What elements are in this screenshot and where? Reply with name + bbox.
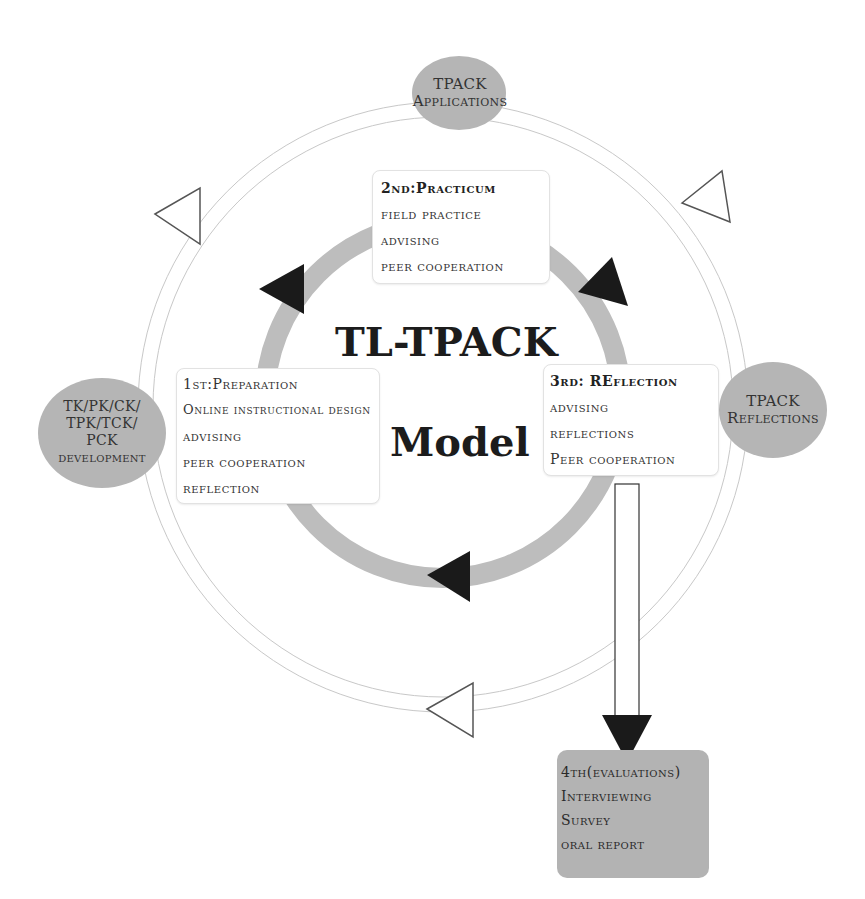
node-tpack-applications: TPACK Applications <box>410 76 510 110</box>
node-tpack-reflections: TPACK Reflections <box>718 393 828 427</box>
node-label-line: TPK/TCK/ <box>38 415 166 432</box>
stage-reflection-box: 3rd: REflection advising reflections Pee… <box>543 364 719 476</box>
stage-title: 1st:Preparation <box>183 371 379 397</box>
stage-item: peer cooperation <box>381 253 549 279</box>
stage-title: 2nd:Practicum <box>381 175 549 201</box>
stage-item: Interviewing <box>561 784 709 808</box>
model-title-line1: TL-TPACK <box>335 318 557 365</box>
node-label-line: Applications <box>410 93 510 110</box>
stage-practicum-box: 2nd:Practicum field practice advising pe… <box>372 170 550 284</box>
model-title-line2: Model <box>390 418 530 465</box>
stage-item: oral report <box>561 832 709 856</box>
node-label-line: TK/PK/CK/ <box>38 398 166 415</box>
stage-item: Online instructional design <box>183 397 379 423</box>
stage-item: advising <box>550 394 718 420</box>
node-label-line: TPACK <box>718 393 828 410</box>
stage-preparation-box: 1st:Preparation Online instructional des… <box>176 368 380 504</box>
stage-title: 3rd: REflection <box>550 368 718 394</box>
stage-item: Survey <box>561 808 709 832</box>
stage-item: advising <box>183 423 379 449</box>
stage-item: reflection <box>183 475 379 501</box>
node-label-line: development <box>38 449 166 466</box>
stage-item: field practice <box>381 201 549 227</box>
stage-item: peer cooperation <box>183 449 379 475</box>
stage-item: advising <box>381 227 549 253</box>
outer-arrow-bottom-icon <box>427 683 473 737</box>
node-label-line: TPACK <box>410 76 510 93</box>
cycle-arrow-bottom-icon <box>427 551 470 602</box>
to-evaluation-arrow-shaft <box>615 484 639 716</box>
outer-arrow-upper-right-icon <box>682 171 730 222</box>
outer-arrow-upper-left-icon <box>155 188 200 244</box>
node-development: TK/PK/CK/ TPK/TCK/ PCK development <box>38 398 166 466</box>
stage-item: reflections <box>550 420 718 446</box>
stage-item: Peer cooperation <box>550 446 718 472</box>
node-label-line: PCK <box>38 432 166 449</box>
stage-evaluations-box: 4th(evaluations) Interviewing Survey ora… <box>557 750 709 878</box>
node-label-line: Reflections <box>718 410 828 427</box>
stage-title: 4th(evaluations) <box>561 760 709 784</box>
